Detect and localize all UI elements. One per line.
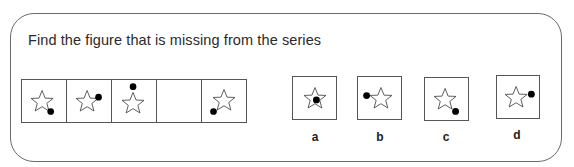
option-d[interactable]: [496, 75, 540, 119]
series-cell-3: [111, 79, 157, 123]
star-with-dot-icon: [358, 77, 401, 119]
series-cell-2: [66, 79, 112, 123]
star-with-dot-icon: [67, 80, 111, 122]
star-with-dot-icon: [293, 77, 336, 119]
star-with-dot-icon: [22, 80, 66, 122]
series-cell-5: [201, 79, 247, 123]
option-c-label[interactable]: c: [436, 130, 456, 144]
question-title: Find the figure that is missing from the…: [28, 32, 321, 48]
star-with-dot-icon: [202, 80, 246, 122]
star-with-dot-icon: [425, 78, 468, 120]
option-d-label[interactable]: d: [507, 128, 527, 142]
star-with-dot-icon: [112, 80, 156, 122]
series-cell-1: [21, 79, 67, 123]
option-b[interactable]: [357, 76, 402, 120]
option-a-label[interactable]: a: [305, 130, 325, 144]
star-with-dot-icon: [497, 76, 539, 118]
option-c[interactable]: [424, 77, 469, 121]
series-cell-missing: [156, 79, 202, 123]
option-a[interactable]: [292, 76, 337, 120]
option-b-label[interactable]: b: [370, 130, 390, 144]
